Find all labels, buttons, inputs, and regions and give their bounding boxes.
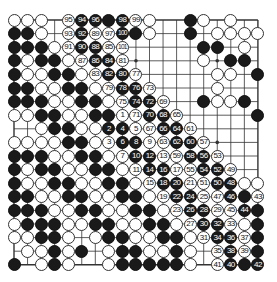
white-stone [170,218,183,231]
black-stone [143,218,156,231]
black-stone-move-68: 68 [157,109,170,122]
black-stone [211,41,224,54]
white-stone-move-79: 79 [102,82,115,95]
black-stone-move-44: 44 [238,204,251,217]
black-stone [35,95,48,108]
white-stone [48,204,61,217]
black-stone [21,218,34,231]
white-stone [62,258,75,271]
white-stone [48,150,61,163]
white-stone [35,122,48,135]
black-stone-move-70: 70 [143,109,156,122]
white-stone-move-59: 59 [170,150,183,163]
white-stone [89,136,102,149]
black-stone-move-100: 100 [116,27,129,40]
black-stone [8,95,21,108]
white-stone-move-21: 21 [184,177,197,190]
white-stone [211,27,224,40]
white-stone-move-65: 65 [170,109,183,122]
white-stone [211,95,224,108]
white-stone [8,218,21,231]
black-stone [184,27,197,40]
white-stone-move-7: 7 [116,150,129,163]
white-stone-move-61: 61 [184,122,197,135]
black-stone-move-62: 62 [170,136,183,149]
black-stone [8,68,21,81]
black-stone [48,177,61,190]
black-stone [48,109,61,122]
white-stone-move-93: 93 [62,27,75,40]
black-stone [8,190,21,203]
white-stone [62,95,75,108]
black-stone [48,218,61,231]
black-stone-move-76: 76 [129,82,142,95]
white-stone-move-63: 63 [157,136,170,149]
black-stone [8,258,21,271]
black-stone-move-96: 96 [89,14,102,27]
black-stone-move-88: 88 [89,41,102,54]
black-stone-move-56: 56 [197,150,210,163]
white-stone [143,231,156,244]
black-stone [8,82,21,95]
black-stone [8,163,21,176]
white-stone-move-73: 73 [143,82,156,95]
black-stone-move-78: 78 [116,82,129,95]
star-point [215,59,219,63]
white-stone [35,177,48,190]
white-stone [8,136,21,149]
white-stone [116,218,129,231]
black-stone [48,245,61,258]
white-stone-move-15: 15 [143,177,156,190]
black-stone [8,150,21,163]
white-stone [238,177,251,190]
black-stone-move-98: 98 [116,14,129,27]
black-stone-move-18: 18 [157,177,170,190]
black-stone-move-14: 14 [143,163,156,176]
white-stone-move-101: 101 [116,41,129,54]
black-stone [35,109,48,122]
black-stone [184,14,197,27]
white-stone [75,109,88,122]
black-stone-move-6: 6 [116,136,129,149]
black-stone-move-60: 60 [184,136,197,149]
black-stone-move-16: 16 [157,163,170,176]
black-stone-move-58: 58 [184,150,197,163]
black-stone [238,95,251,108]
white-stone [21,14,34,27]
black-stone [75,82,88,95]
white-stone-move-55: 55 [184,163,197,176]
white-stone-move-85: 85 [102,41,115,54]
white-stone-move-53: 53 [211,150,224,163]
black-stone [102,14,115,27]
black-stone-move-52: 52 [211,163,224,176]
white-stone [197,14,210,27]
white-stone-move-95: 95 [62,14,75,27]
black-stone [35,204,48,217]
black-stone-move-28: 28 [197,204,210,217]
white-stone [102,245,115,258]
white-stone-move-91: 91 [62,41,75,54]
black-stone [116,245,129,258]
black-stone [35,163,48,176]
black-stone [35,218,48,231]
star-point [134,59,138,63]
white-stone [129,218,142,231]
white-stone [89,82,102,95]
white-stone [21,136,34,149]
white-stone-move-89: 89 [89,27,102,40]
black-stone [62,136,75,149]
white-stone [62,204,75,217]
white-stone-move-57: 57 [197,136,210,149]
black-stone [143,204,156,217]
white-stone [8,109,21,122]
black-stone [157,258,170,271]
white-stone [238,218,251,231]
black-stone [21,41,34,54]
black-stone [170,245,183,258]
white-stone [116,163,129,176]
white-stone [62,109,75,122]
black-stone [251,218,264,231]
white-stone-move-9: 9 [143,136,156,149]
white-stone [157,204,170,217]
white-stone [184,231,197,244]
